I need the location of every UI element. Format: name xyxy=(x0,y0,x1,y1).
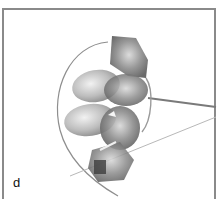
gem-earring-photo xyxy=(0,0,220,199)
panel-label: d xyxy=(13,176,20,189)
